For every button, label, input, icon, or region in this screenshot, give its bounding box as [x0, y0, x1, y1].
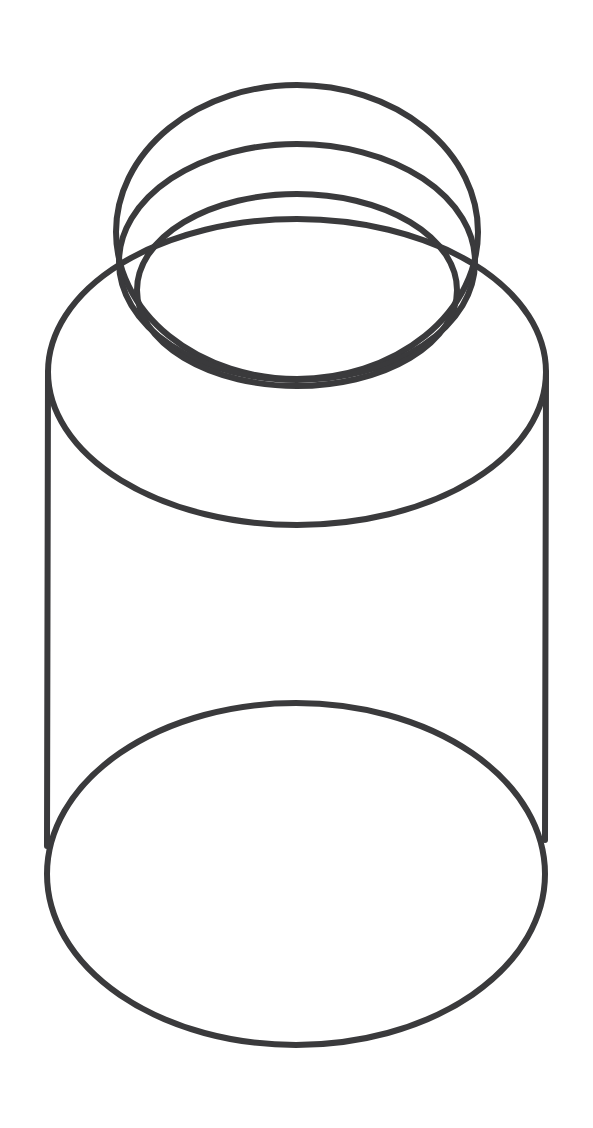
left-body-wall	[47, 372, 48, 846]
jar-line-drawing	[0, 0, 593, 1128]
figure-root	[0, 0, 593, 1128]
right-body-wall	[545, 372, 546, 840]
drawing-background	[0, 0, 593, 1128]
